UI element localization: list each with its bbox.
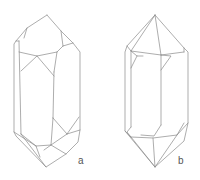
crystal-b-drawing [125,15,188,167]
crystal-diagram [0,0,200,180]
panel-label-b: b [178,156,184,166]
crystal-a-drawing [14,15,80,167]
panel-label-a: a [78,156,84,166]
